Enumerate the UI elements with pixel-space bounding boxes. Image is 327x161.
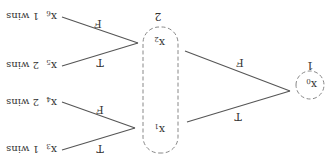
root-node: x0 1 [296, 59, 324, 99]
node-x2-label: x2 [154, 35, 165, 49]
leaf-x3-label: x3 [46, 142, 57, 156]
leaf-x6: x6 1 wins [6, 9, 57, 23]
leaf-x4: x4 2 wins [6, 95, 57, 109]
edge-x2-F-label: F [94, 17, 102, 30]
edge-x2-T-label: T [96, 56, 104, 69]
root-player-label: 1 [307, 59, 314, 72]
node-x1-label: x1 [154, 122, 165, 136]
leaf-x6-label: x6 [46, 9, 57, 23]
edge-x1-F-label: F [96, 103, 104, 116]
game-tree-diagram: x0 1 T F x1 x2 2 T F T F x3 1 wins x4 2 … [0, 0, 327, 161]
info-set-player-2: x1 x2 2 [143, 10, 178, 153]
leaf-x3: x3 1 wins [6, 142, 57, 156]
leaf-x5-label: x5 [46, 58, 57, 72]
edge-x1-T-label: T [96, 142, 104, 155]
leaf-x5-outcome: 2 wins [6, 60, 39, 71]
edge-root-F-label: F [236, 56, 244, 69]
info-set-player-label: 2 [155, 10, 162, 23]
edge-root-T-label: T [234, 110, 242, 123]
leaf-x4-label: x4 [46, 95, 57, 109]
leaf-x4-outcome: 2 wins [6, 97, 39, 108]
leaf-x3-outcome: 1 wins [6, 144, 39, 155]
leaf-x6-outcome: 1 wins [6, 11, 39, 22]
root-node-label: x0 [306, 77, 317, 91]
leaf-x5: x5 2 wins [6, 58, 57, 72]
